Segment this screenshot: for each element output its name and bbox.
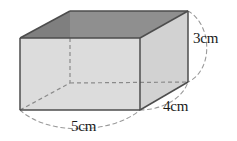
width-dimension-label: 5cm	[71, 118, 96, 135]
rectangular-prism-drawing	[0, 0, 237, 141]
depth-dimension-label: 4cm	[163, 98, 188, 115]
height-dimension-label: 3cm	[193, 30, 218, 47]
front-face	[20, 38, 140, 110]
figure-container: 3cm 4cm 5cm	[0, 0, 237, 141]
